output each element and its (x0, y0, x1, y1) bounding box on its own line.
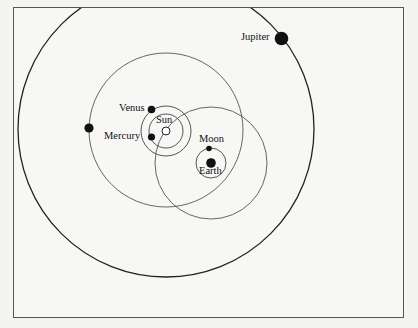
jupiter-icon (275, 32, 289, 46)
moon-icon (206, 146, 212, 152)
label-sun: Sun (156, 115, 172, 126)
label-jupiter: Jupiter (241, 32, 270, 43)
label-moon: Moon (199, 134, 224, 145)
sun-icon (162, 127, 170, 135)
diagram-frame (13, 7, 404, 318)
label-mercury: Mercury (104, 131, 140, 142)
mercury-icon (148, 133, 155, 140)
jupiter-orbit (18, 8, 314, 277)
mars-icon (84, 123, 93, 132)
orbit-diagram (14, 8, 404, 318)
venus-icon (148, 106, 156, 114)
label-earth: Earth (199, 166, 222, 177)
label-venus: Venus (119, 103, 145, 114)
